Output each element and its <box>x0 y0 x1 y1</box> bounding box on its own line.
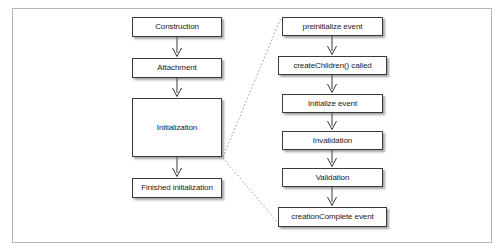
node-finished-initialization[interactable]: Finished initialization <box>132 178 222 198</box>
node-construction[interactable]: Construction <box>132 17 222 37</box>
node-label: Initialize event <box>308 99 357 109</box>
node-label: Attachment <box>157 63 196 73</box>
node-label: createChildren() called <box>293 61 371 71</box>
node-label: Validation <box>316 173 350 183</box>
node-label: preinitialize event <box>303 22 363 32</box>
node-validation[interactable]: Validation <box>282 168 383 187</box>
node-creation-complete-event[interactable]: creationComplete event <box>278 207 387 227</box>
figure-frame <box>12 8 492 243</box>
node-invalidation[interactable]: Invalidation <box>282 131 383 150</box>
node-attachment[interactable]: Attachment <box>132 58 222 78</box>
node-initialize-event[interactable]: Initialize event <box>282 94 383 113</box>
node-label: Construction <box>155 22 199 32</box>
node-label: Initialization <box>157 123 197 133</box>
node-label: Invalidation <box>313 136 352 146</box>
node-preinitialize-event[interactable]: preinitialize event <box>282 17 383 36</box>
node-label: creationComplete event <box>291 212 373 222</box>
node-label: Finished initialization <box>141 183 213 193</box>
node-initialization[interactable]: Initialization <box>132 98 222 157</box>
node-create-children-called[interactable]: createChildren() called <box>278 56 387 75</box>
diagram-figure: Construction Attachment Initialization F… <box>0 0 504 252</box>
